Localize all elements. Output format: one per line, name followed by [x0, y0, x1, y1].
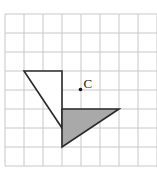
point-label: C [84, 76, 93, 91]
grid-diagram: C [0, 0, 157, 171]
point-dot-icon [79, 88, 83, 92]
